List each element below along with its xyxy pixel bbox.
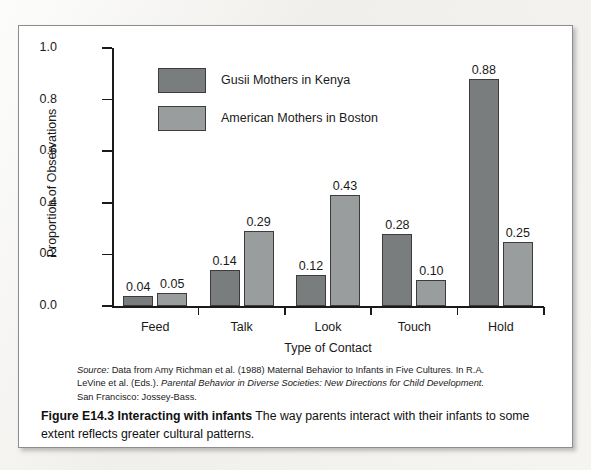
bar-value-label: 0.88 [472, 63, 496, 77]
bar [382, 234, 412, 306]
y-tick-label: 0.6 [17, 143, 57, 157]
y-tick [102, 150, 112, 152]
y-tick-label: 0.0 [17, 298, 57, 312]
source-line2-title: Parental Behavior in Diverse Societies: … [161, 378, 484, 388]
bar [296, 275, 326, 306]
x-tick [284, 307, 286, 315]
bar [469, 79, 499, 306]
x-category-label: Hold [488, 320, 514, 334]
legend-item: American Mothers in Boston [158, 104, 378, 132]
y-tick [102, 202, 112, 204]
source-line2-plain: LeVine et al. (Eds.). [77, 378, 161, 388]
bar [157, 293, 187, 306]
x-tick [370, 307, 372, 315]
x-axis-line [112, 306, 544, 308]
source-note: Source: Data from Amy Richman et al. (19… [77, 364, 529, 404]
y-tick-label: 0.8 [17, 92, 57, 106]
bar-chart: Proportion of Observations Type of Conta… [19, 26, 574, 356]
y-tick [102, 305, 112, 307]
figure-caption: Figure E14.3 Interacting with infants Th… [41, 408, 557, 444]
y-tick [102, 254, 112, 256]
bar [123, 296, 153, 306]
figure-caption-label: Figure E14.3 Interacting with infants [41, 409, 252, 423]
bar-value-label: 0.14 [212, 254, 236, 268]
bar-value-label: 0.28 [385, 218, 409, 232]
x-axis-title: Type of Contact [112, 341, 544, 355]
x-tick [457, 307, 459, 315]
x-category-label: Look [314, 320, 341, 334]
x-tick [198, 307, 200, 315]
bar-value-label: 0.04 [126, 280, 150, 294]
bar-value-label: 0.29 [246, 215, 270, 229]
x-category-label: Talk [230, 320, 252, 334]
y-tick-label: 0.4 [17, 195, 57, 209]
bar-value-label: 0.43 [333, 179, 357, 193]
legend-swatch-american [158, 106, 206, 131]
source-line1: Data from Amy Richman et al. (1988) Mate… [109, 365, 484, 375]
legend-label-gusii: Gusii Mothers in Kenya [221, 73, 350, 87]
bar [330, 195, 360, 306]
y-axis-line [112, 48, 114, 307]
y-tick-label: 1.0 [17, 40, 57, 54]
y-tick-label: 0.2 [17, 246, 57, 260]
x-category-label: Touch [398, 320, 431, 334]
y-tick [102, 47, 112, 49]
x-tick [543, 307, 545, 315]
bar [416, 280, 446, 306]
bar [210, 270, 240, 306]
source-line3: San Francisco: Jossey-Bass. [77, 392, 197, 402]
bar [244, 231, 274, 306]
legend-label-american: American Mothers in Boston [221, 111, 378, 125]
bar-value-label: 0.25 [506, 226, 530, 240]
source-label: Source: [77, 365, 109, 375]
bar-value-label: 0.12 [299, 259, 323, 273]
figure-box: Proportion of Observations Type of Conta… [18, 25, 573, 448]
bar-value-label: 0.10 [419, 264, 443, 278]
bar-value-label: 0.05 [160, 277, 184, 291]
y-tick [102, 99, 112, 101]
legend-swatch-gusii [158, 68, 206, 93]
chart-legend: Gusii Mothers in Kenya American Mothers … [158, 66, 378, 142]
bar [503, 242, 533, 307]
x-category-label: Feed [141, 320, 170, 334]
legend-item: Gusii Mothers in Kenya [158, 66, 378, 94]
